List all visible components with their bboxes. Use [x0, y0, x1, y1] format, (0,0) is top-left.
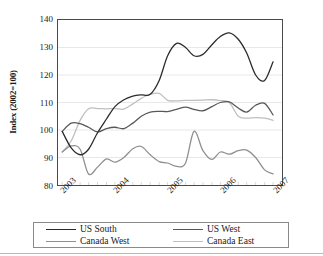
y-axis-tick-labels: 8090100110120130140 [26, 0, 56, 256]
legend-label: Canada East [207, 236, 254, 247]
x-axis-tick-labels: 20032004200520062007 [57, 188, 283, 222]
chart-legend: US SouthUS WestCanada WestCanada East [33, 222, 289, 248]
plot-lines [58, 20, 282, 185]
legend-item-us-west[interactable]: US West [161, 224, 288, 235]
legend-line-icon [173, 229, 203, 230]
chart-figure: Index (2002=100) 8090100110120130140 200… [0, 0, 323, 256]
series-line-canada-west [62, 131, 273, 174]
y-axis-title: Index (2002=100) [6, 42, 20, 162]
y-axis-tick: 120 [27, 70, 56, 80]
legend-line-icon [173, 241, 203, 242]
y-axis-tick: 100 [27, 125, 56, 135]
legend-item-canada-east[interactable]: Canada East [161, 236, 288, 247]
legend-line-icon [46, 229, 76, 230]
legend-item-us-south[interactable]: US South [34, 224, 161, 235]
bottom-divider [0, 253, 323, 254]
y-axis-title-text: Index (2002=100) [8, 70, 18, 134]
series-line-us-south [62, 33, 273, 155]
plot-area [57, 19, 283, 186]
series-line-canada-east [62, 93, 273, 152]
legend-label: Canada West [80, 236, 129, 247]
legend-label: US West [207, 224, 240, 235]
y-axis-tick: 110 [27, 98, 56, 108]
y-axis-tick: 140 [27, 14, 56, 24]
legend-line-icon [46, 241, 76, 242]
legend-item-canada-west[interactable]: Canada West [34, 236, 161, 247]
y-axis-tick: 130 [27, 42, 56, 52]
y-axis-tick: 80 [27, 181, 56, 191]
series-line-us-west [62, 102, 273, 132]
legend-label: US South [80, 224, 117, 235]
y-axis-tick: 90 [27, 153, 56, 163]
